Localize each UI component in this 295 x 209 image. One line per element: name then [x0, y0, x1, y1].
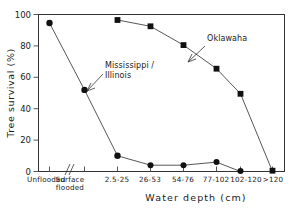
y-axis-ticks: [34, 15, 39, 172]
y-axis-tick-labels: 0 20 40 60 80 100: [15, 10, 31, 177]
y-tick-label: 40: [20, 104, 31, 114]
annotation-label-2: Illinois: [105, 71, 131, 80]
x-tick-label: 54-76: [172, 175, 194, 184]
x-tick-label: 2.5-25: [105, 175, 129, 184]
x-tick-label-2: flooded: [56, 183, 84, 192]
data-point: [238, 168, 244, 174]
series-oklawaha: [115, 17, 276, 174]
data-point: [148, 23, 154, 29]
series-line: [50, 23, 241, 172]
x-tick-label: >120: [263, 175, 284, 184]
x-tick-label: 102-120: [230, 175, 262, 184]
y-tick-label: 80: [20, 41, 31, 51]
x-tick-label: 26-53: [139, 175, 161, 184]
y-tick-label: 20: [20, 135, 31, 145]
series-line: [118, 20, 273, 172]
annotation-label: Mississippi /: [105, 61, 154, 70]
x-axis-title: Water depth (cm): [145, 192, 246, 203]
x-axis-tick-labels: Unflooded Surface flooded 2.5-25 26-53 5…: [27, 175, 283, 192]
plot-frame: [39, 15, 285, 172]
x-tick-label: 77-102: [203, 175, 230, 184]
data-point: [181, 42, 187, 48]
data-point: [214, 159, 220, 165]
data-point: [81, 87, 87, 93]
axis-break-marker: [65, 164, 74, 175]
data-point: [115, 17, 121, 23]
data-point: [114, 153, 120, 159]
data-point: [238, 91, 244, 97]
annotation-label: Oklawaha: [207, 34, 247, 43]
y-axis-title: Tree survival (%): [5, 48, 16, 139]
chart-svg: 0 20 40 60 80 100 Tree survival (%) Unfl…: [0, 0, 295, 209]
annotation-mississippi-illinois: Mississippi / Illinois: [87, 61, 154, 91]
data-point: [148, 162, 154, 168]
data-point: [46, 20, 52, 26]
chart-figure: 0 20 40 60 80 100 Tree survival (%) Unfl…: [0, 0, 295, 209]
y-tick-label: 60: [20, 72, 31, 82]
annotation-oklawaha: Oklawaha: [188, 34, 247, 62]
data-point: [181, 162, 187, 168]
data-point: [214, 66, 220, 72]
y-tick-label: 100: [15, 10, 31, 20]
data-point: [270, 168, 276, 174]
